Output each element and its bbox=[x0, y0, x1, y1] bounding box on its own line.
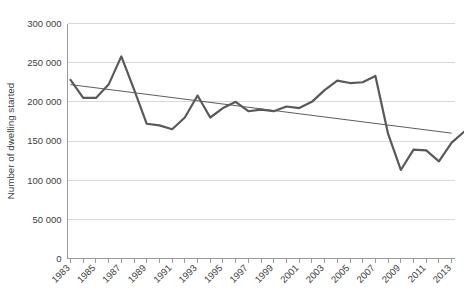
y-axis-tick-label: 50 000 bbox=[32, 214, 61, 225]
y-axis-tick-label: 0 bbox=[56, 253, 61, 264]
x-axis-tick-label: 1997 bbox=[227, 262, 250, 285]
y-axis-tick-label: 200 000 bbox=[27, 96, 61, 107]
x-axis-tick-label: 1999 bbox=[252, 262, 275, 285]
x-axis-tick-label: 1985 bbox=[75, 262, 98, 285]
x-axis-tickmarks bbox=[71, 259, 452, 263]
y-axis-title: Number of dwelling started bbox=[5, 83, 16, 200]
x-axis-tick-label: 2003 bbox=[303, 262, 326, 285]
x-axis-tick-label: 2007 bbox=[354, 262, 377, 285]
x-axis-tick-label: 1991 bbox=[151, 262, 174, 285]
x-axis-tick-label: 1987 bbox=[100, 262, 123, 285]
x-axis-tick-labels: 1983198519871989199119931995199719992001… bbox=[49, 262, 453, 285]
x-axis-tick-label: 2013 bbox=[430, 262, 453, 285]
x-axis-tick-label: 2011 bbox=[405, 262, 427, 284]
line-chart: 300 000250 000200 000150 000100 00050 00… bbox=[0, 0, 464, 303]
data-series-line bbox=[71, 56, 464, 170]
x-axis-tick-label: 2001 bbox=[278, 262, 301, 285]
x-axis-tick-label: 1983 bbox=[49, 262, 72, 285]
x-axis-tick-label: 2005 bbox=[329, 262, 352, 285]
y-axis-tick-label: 150 000 bbox=[27, 135, 61, 146]
y-axis-tick-labels: 300 000250 000200 000150 000100 00050 00… bbox=[27, 18, 61, 264]
y-axis-tick-label: 250 000 bbox=[27, 57, 61, 68]
x-axis-tick-label: 2009 bbox=[380, 262, 403, 285]
chart-container: 300 000250 000200 000150 000100 00050 00… bbox=[0, 0, 464, 303]
y-axis-tick-label: 300 000 bbox=[27, 18, 61, 29]
y-axis-tick-label: 100 000 bbox=[27, 175, 61, 186]
gridlines bbox=[68, 24, 456, 220]
x-axis-tick-label: 1995 bbox=[202, 262, 225, 285]
x-axis-tick-label: 1993 bbox=[176, 262, 199, 285]
x-axis-tick-label: 1989 bbox=[125, 262, 148, 285]
